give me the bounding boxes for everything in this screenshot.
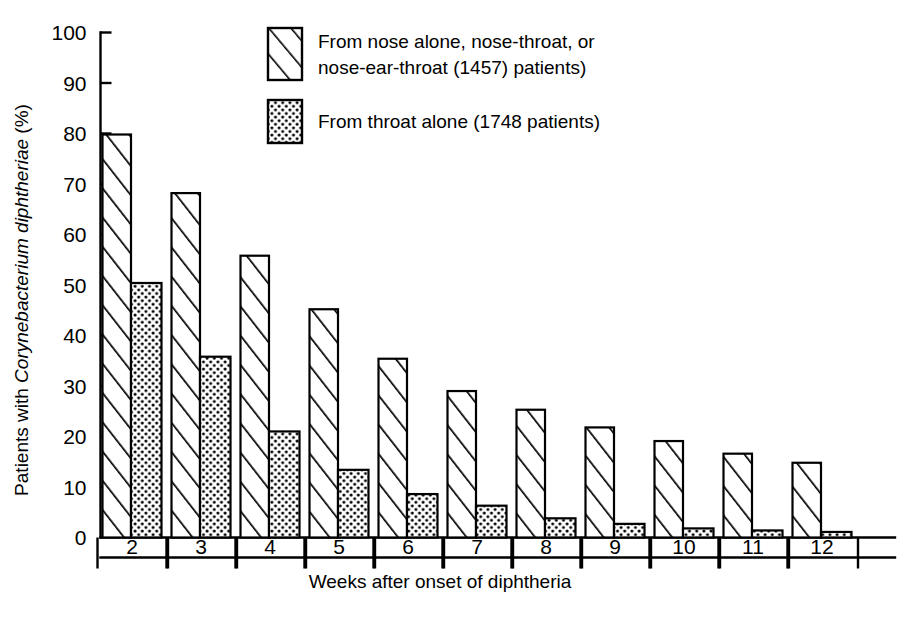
bar <box>448 391 477 537</box>
legend-label-line2: nose-ear-throat (1457) patients) <box>318 57 586 78</box>
bar <box>241 256 270 538</box>
bar <box>407 494 438 537</box>
bar <box>821 532 852 538</box>
svg-text:Patients with Corynebacterium: Patients with Corynebacterium diphtheria… <box>11 104 32 496</box>
y-tick-label: 70 <box>63 173 86 196</box>
x-axis: 23456789101112 <box>98 535 896 569</box>
bar <box>379 359 408 538</box>
y-tick-label: 0 <box>75 526 87 549</box>
y-tick-label: 10 <box>63 476 86 499</box>
chart-legend: From nose alone, nose-throat, ornose-ear… <box>268 28 600 143</box>
legend-swatch-nose <box>268 28 302 80</box>
bar <box>655 441 684 537</box>
bar-chart-figure: 0102030405060708090100 23456789101112 Fr… <box>0 0 919 622</box>
bar <box>614 524 645 538</box>
y-tick-label: 50 <box>63 274 86 297</box>
bar <box>586 427 615 537</box>
bar <box>793 463 822 538</box>
y-tick-label: 60 <box>63 223 86 246</box>
bar <box>131 283 162 538</box>
chart-canvas: 0102030405060708090100 23456789101112 Fr… <box>0 0 919 622</box>
y-tick-label: 20 <box>63 425 86 448</box>
y-axis-title: Patients with Corynebacterium diphtheria… <box>11 104 32 496</box>
y-tick-label: 30 <box>63 375 86 398</box>
bar <box>683 528 714 537</box>
legend-swatch-throat-alone <box>268 100 302 143</box>
bar <box>724 454 753 538</box>
bar <box>269 431 300 537</box>
bar <box>752 530 783 537</box>
bar <box>310 309 339 537</box>
bar <box>338 470 369 538</box>
bar <box>103 135 132 538</box>
bar <box>172 193 201 537</box>
y-tick-label: 90 <box>63 72 86 95</box>
bar <box>545 518 576 537</box>
bar <box>200 357 231 538</box>
y-tick-label: 100 <box>51 21 86 44</box>
bar <box>476 506 507 538</box>
legend-label: From nose alone, nose-throat, or <box>318 31 595 52</box>
bars-layer <box>103 135 852 538</box>
x-axis-title: Weeks after onset of diphtheria <box>309 571 572 592</box>
bar <box>517 410 546 538</box>
y-tick-label: 40 <box>63 324 86 347</box>
y-tick-label: 80 <box>63 122 86 145</box>
legend-label: From throat alone (1748 patients) <box>318 111 600 132</box>
